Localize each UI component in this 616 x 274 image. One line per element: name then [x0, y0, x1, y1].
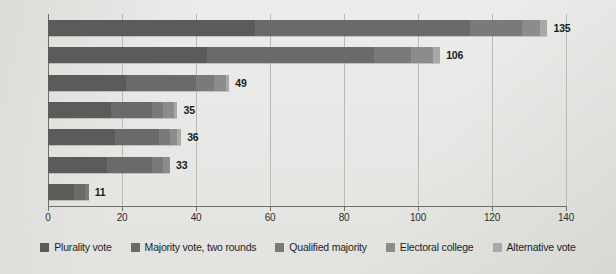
bar-value-label: 135 [554, 20, 571, 36]
legend-label: Plurality vote [54, 241, 111, 253]
legend-item[interactable]: Alternative vote [493, 241, 576, 253]
bar-segment [152, 102, 163, 118]
bar-segment [207, 47, 374, 63]
x-tick [344, 206, 345, 211]
bar-row: 1960s36 [48, 124, 566, 151]
legend-label: Majority vote, two rounds [145, 241, 257, 253]
bar-row: 1970s35 [48, 96, 566, 123]
bar-segment [374, 47, 411, 63]
bar-segment [152, 157, 163, 173]
stacked-bar-chart: 020406080100120140 2000s1351990s1061980s… [0, 0, 616, 274]
x-tick-label: 60 [265, 212, 276, 223]
x-tick [196, 206, 197, 211]
x-tick [122, 206, 123, 211]
stacked-bar [48, 75, 229, 91]
bar-row: 1940s11 [48, 179, 566, 206]
bar-segment [48, 102, 111, 118]
bar-segment [48, 20, 255, 36]
bar-row: 1990s106 [48, 41, 566, 68]
stacked-bar [48, 157, 170, 173]
bar-segment [74, 184, 85, 200]
bar-segment [163, 157, 170, 173]
x-tick [492, 206, 493, 211]
legend-swatch-icon [493, 243, 502, 252]
stacked-bar [48, 20, 547, 36]
legend-swatch-icon [275, 243, 284, 252]
stacked-bar [48, 47, 440, 63]
x-tick [566, 206, 567, 211]
legend-swatch-icon [386, 243, 395, 252]
bar-segment [177, 129, 181, 145]
gridline [566, 14, 567, 206]
bar-value-label: 33 [176, 157, 187, 173]
bar-value-label: 36 [187, 129, 198, 145]
bar-segment [170, 129, 177, 145]
legend-item[interactable]: Qualified majority [275, 241, 367, 253]
x-axis-line [48, 206, 567, 207]
x-tick-label: 20 [117, 212, 128, 223]
bar-segment [522, 20, 541, 36]
legend-label: Alternative vote [507, 241, 576, 253]
bar-segment [48, 184, 74, 200]
x-tick [270, 206, 271, 211]
legend-item[interactable]: Majority vote, two rounds [131, 241, 257, 253]
bar-segment [196, 75, 215, 91]
legend-item[interactable]: Electoral college [386, 241, 474, 253]
bar-value-label: 106 [446, 47, 463, 63]
x-tick-label: 0 [45, 212, 50, 223]
legend-swatch-icon [40, 243, 49, 252]
bar-segment [107, 157, 151, 173]
bar-segment [433, 47, 440, 63]
stacked-bar [48, 184, 89, 200]
stacked-bar [48, 129, 181, 145]
chart-legend: Plurality voteMajority vote, two roundsQ… [0, 241, 616, 253]
bar-segment [159, 129, 170, 145]
x-tick-label: 140 [558, 212, 574, 223]
bar-segment [48, 129, 115, 145]
legend-label: Qualified majority [289, 241, 367, 253]
bar-row: 1980s49 [48, 69, 566, 96]
bar-segment [48, 47, 207, 63]
bar-segment [226, 75, 230, 91]
legend-swatch-icon [131, 243, 140, 252]
bar-segment [48, 157, 107, 173]
x-tick [418, 206, 419, 211]
x-tick-label: 40 [191, 212, 202, 223]
bar-segment [214, 75, 225, 91]
x-tick [48, 206, 49, 211]
bar-row: 1950s33 [48, 151, 566, 178]
bar-segment [126, 75, 196, 91]
bar-value-label: 49 [235, 75, 246, 91]
bar-value-label: 11 [95, 184, 106, 200]
bar-segment [174, 102, 178, 118]
x-tick-label: 120 [484, 212, 500, 223]
bar-row: 2000s135 [48, 14, 566, 41]
stacked-bar [48, 102, 177, 118]
x-tick-label: 100 [410, 212, 426, 223]
bar-segment [85, 184, 89, 200]
bar-segment [163, 102, 174, 118]
bar-segment [540, 20, 547, 36]
bar-segment [111, 102, 152, 118]
bar-rows: 2000s1351990s1061980s491970s351960s36195… [48, 14, 566, 206]
bar-segment [411, 47, 433, 63]
bar-segment [115, 129, 159, 145]
legend-label: Electoral college [400, 241, 474, 253]
bar-segment [48, 75, 126, 91]
x-tick-label: 80 [339, 212, 350, 223]
bar-segment [255, 20, 470, 36]
bar-segment [470, 20, 522, 36]
legend-item[interactable]: Plurality vote [40, 241, 111, 253]
bar-value-label: 35 [184, 102, 195, 118]
